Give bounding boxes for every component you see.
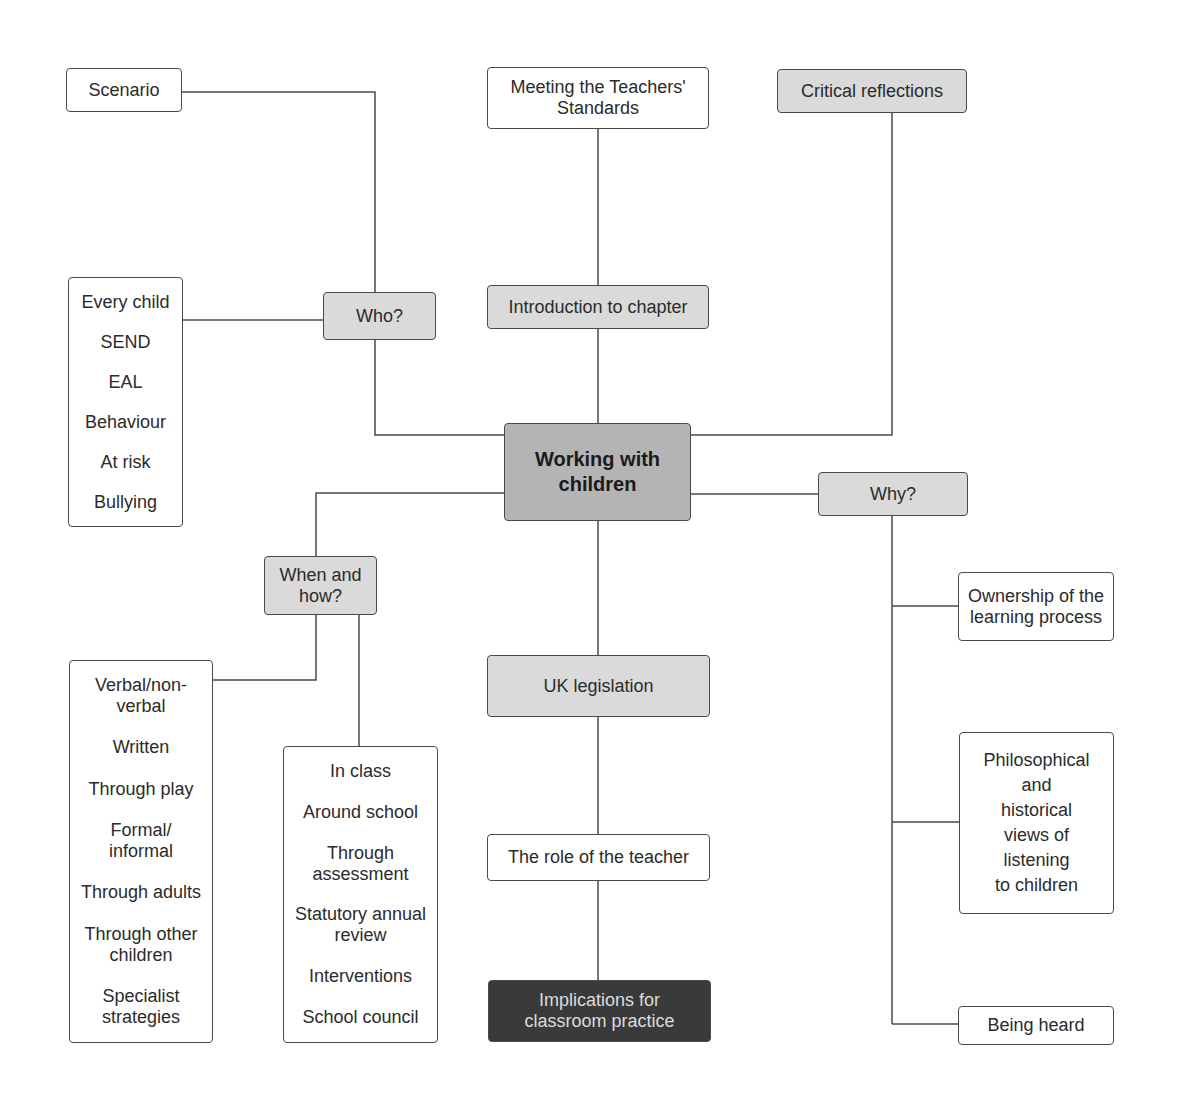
scenario-label: Scenario (88, 80, 159, 101)
who-node: Who? (323, 292, 436, 340)
being-heard-label: Being heard (987, 1015, 1084, 1036)
why-node: Why? (818, 472, 968, 516)
when-list-item: In class (330, 761, 391, 782)
ownership-node: Ownership of the learning process (958, 572, 1114, 641)
when-list-item: Around school (303, 802, 418, 823)
who-list-item: Every child (81, 292, 169, 313)
implications-label: Implications for classroom practice (524, 990, 674, 1032)
how-list-item: Verbal/non- verbal (95, 675, 187, 717)
who-list-item: SEND (100, 332, 150, 353)
how-list-item: Through adults (81, 882, 201, 903)
how-list-item: Through other children (84, 924, 197, 966)
who-list-item: Bullying (94, 492, 157, 513)
uk-legislation-label: UK legislation (543, 676, 653, 697)
philosophical-node: Philosophical and historical views of li… (959, 732, 1114, 914)
role-of-teacher-label: The role of the teacher (508, 847, 689, 868)
why-label: Why? (870, 484, 916, 505)
how-list-item: Through play (88, 779, 193, 800)
connector-scenario-center (182, 92, 505, 435)
how-list-node: Verbal/non- verbal Written Through play … (69, 660, 213, 1043)
who-label: Who? (356, 306, 403, 327)
connector-whenhow-howlist (212, 614, 316, 680)
who-list-item: At risk (100, 452, 150, 473)
center-node: Working with children (504, 423, 691, 521)
introduction-label: Introduction to chapter (508, 297, 687, 318)
who-list-item: EAL (108, 372, 142, 393)
how-list-item: Written (113, 737, 170, 758)
when-how-node: When and how? (264, 556, 377, 615)
meeting-standards-label: Meeting the Teachers' Standards (510, 77, 685, 119)
when-how-label: When and how? (279, 565, 361, 607)
role-of-teacher-node: The role of the teacher (487, 834, 710, 881)
uk-legislation-node: UK legislation (487, 655, 710, 717)
being-heard-node: Being heard (958, 1006, 1114, 1045)
center-label: Working with children (535, 447, 660, 497)
implications-node: Implications for classroom practice (488, 980, 711, 1042)
how-list-item: Specialist strategies (102, 986, 180, 1028)
ownership-label: Ownership of the learning process (968, 586, 1104, 628)
critical-reflections-node: Critical reflections (777, 69, 967, 113)
how-list-item: Formal/ informal (109, 820, 173, 862)
connector-center-whenhow (316, 493, 505, 556)
when-list-item: Interventions (309, 966, 412, 987)
when-list-item: Through assessment (312, 843, 408, 885)
connector-reflections-center (690, 112, 892, 435)
who-list-node: Every child SEND EAL Behaviour At risk B… (68, 277, 183, 527)
when-list-node: In class Around school Through assessmen… (283, 746, 438, 1043)
scenario-node: Scenario (66, 68, 182, 112)
mind-map: Scenario Meeting the Teachers' Standards… (0, 0, 1181, 1120)
when-list-item: School council (302, 1007, 418, 1028)
when-list-item: Statutory annual review (295, 904, 426, 946)
introduction-node: Introduction to chapter (487, 285, 709, 329)
who-list-item: Behaviour (85, 412, 166, 433)
critical-reflections-label: Critical reflections (801, 81, 943, 102)
meeting-standards-node: Meeting the Teachers' Standards (487, 67, 709, 129)
philosophical-label: Philosophical and historical views of li… (983, 748, 1089, 898)
